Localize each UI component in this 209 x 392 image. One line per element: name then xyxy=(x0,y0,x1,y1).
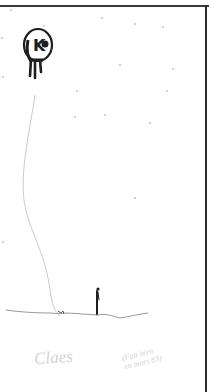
figure xyxy=(96,287,99,314)
artwork-canvas: K Claes (Fait bien en mars 83) xyxy=(0,0,209,392)
kite-string xyxy=(23,95,60,316)
signature-left: Claes xyxy=(33,347,73,370)
sketch-drawing: K xyxy=(0,0,209,392)
balloon: K xyxy=(24,29,52,78)
ground-line xyxy=(6,310,148,318)
